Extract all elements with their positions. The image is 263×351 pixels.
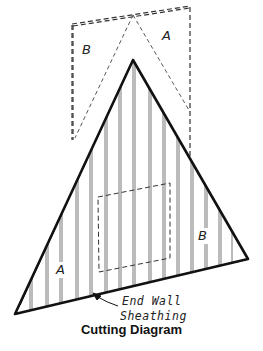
dashed-window-outline xyxy=(98,183,170,272)
piece-label-a-bottom: A xyxy=(55,262,65,277)
diagram-caption: Cutting Diagram xyxy=(0,322,263,337)
annotation-end-wall: End Wall xyxy=(122,294,181,308)
piece-label-b-bottom: B xyxy=(198,228,207,243)
annotation-sheathing: Sheathing xyxy=(120,309,187,323)
end-wall-triangle xyxy=(15,60,248,314)
piece-label-b-top: B xyxy=(82,42,91,57)
piece-label-a-top: A xyxy=(161,28,171,43)
annotation-arrow xyxy=(93,293,118,306)
dashed-cut-lines xyxy=(75,15,190,138)
cutting-diagram-drawing: B A A B End Wall Sheathing xyxy=(0,0,263,351)
